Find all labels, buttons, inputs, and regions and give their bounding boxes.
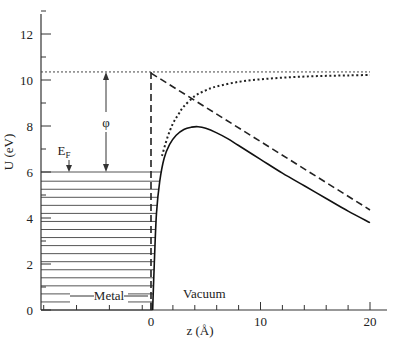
annotations: φ EF Metal Vacuum	[58, 72, 226, 304]
fermi-label: EF	[58, 143, 71, 160]
vacuum-label: Vacuum	[183, 286, 226, 301]
series-dashed-line	[151, 73, 370, 210]
phi-label: φ	[102, 115, 110, 130]
y-axis-title: U (eV)	[1, 134, 16, 170]
x-tick-label: 10	[254, 314, 267, 329]
arrow-down-icon	[103, 164, 109, 172]
y-tick-label: 0	[27, 303, 34, 318]
x-tick-label: 0	[148, 314, 155, 329]
x-tick-label: 20	[364, 314, 377, 329]
data-series	[41, 72, 370, 310]
axis-ticks: 02468101201020	[20, 11, 377, 329]
y-tick-label: 2	[27, 257, 34, 272]
y-tick-label: 4	[27, 211, 34, 226]
energy-diagram-chart: 02468101201020 φ EF Metal Vacuum z (Å) U…	[0, 0, 400, 348]
series-solid-line	[153, 127, 370, 310]
metal-label: Metal	[94, 288, 125, 303]
x-axis-title: z (Å)	[186, 323, 213, 338]
arrow-up-icon	[103, 72, 109, 80]
arrow-down-icon	[66, 165, 72, 172]
y-tick-label: 12	[20, 27, 33, 42]
y-tick-label: 8	[27, 119, 34, 134]
axes	[41, 14, 387, 310]
series-dotted-line	[162, 75, 370, 156]
y-tick-label: 6	[27, 165, 34, 180]
y-tick-label: 10	[20, 73, 33, 88]
